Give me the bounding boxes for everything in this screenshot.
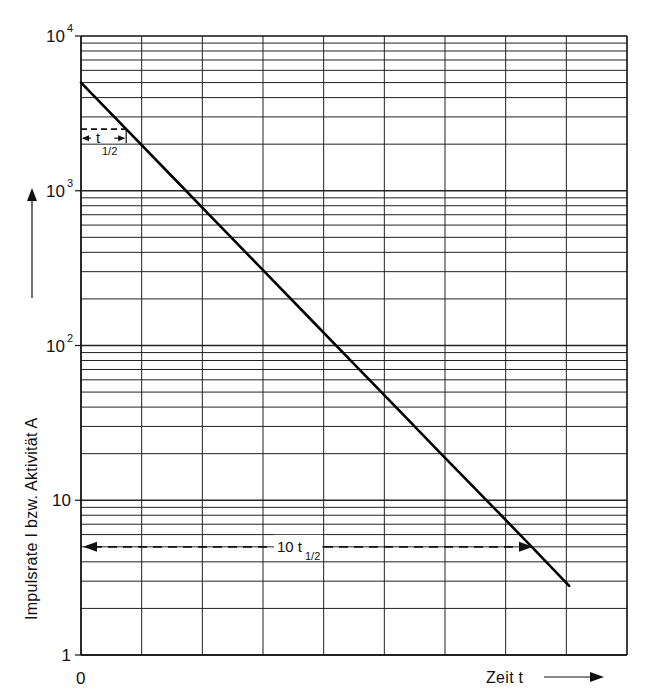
ten-half-life-arrow-left [83, 542, 97, 552]
y-axis-title: Impulsrate I bzw. Aktivität A [23, 417, 40, 620]
ten-half-life-subscript: 1/2 [305, 550, 320, 562]
y-tick-label: 1 [62, 646, 71, 665]
y-tick-label: 10 [52, 491, 71, 510]
y-tick-label: 10 [46, 337, 65, 356]
decay-chart: 104103102101 t1/210 t1/2 Impulsrate I bz… [0, 0, 648, 696]
y-tick-exponent: 3 [67, 177, 73, 189]
half-life-arrow-left [82, 135, 89, 141]
y-tick-label: 10 [46, 27, 65, 46]
half-life-subscript: 1/2 [102, 145, 117, 157]
half-life-arrow-right [118, 135, 125, 141]
y-axis-title-group: Impulsrate I bzw. Aktivität A [23, 188, 40, 620]
y-axis-arrow-head [27, 188, 37, 201]
y-tick-label: 10 [46, 182, 65, 201]
decay-line [81, 83, 569, 586]
y-tick-exponent: 2 [67, 332, 73, 344]
y-axis-ticks: 104103102101 [46, 22, 81, 665]
half-life-label: t [96, 129, 101, 146]
x-origin-label: 0 [76, 669, 85, 688]
x-axis-title: Zeit t [486, 669, 524, 686]
decay-curve [81, 83, 569, 586]
y-tick-exponent: 4 [67, 22, 73, 34]
ten-half-life-arrow-right [519, 542, 533, 552]
x-axis-arrow-head [590, 672, 604, 682]
ten-half-life-label: 10 t [277, 538, 303, 555]
